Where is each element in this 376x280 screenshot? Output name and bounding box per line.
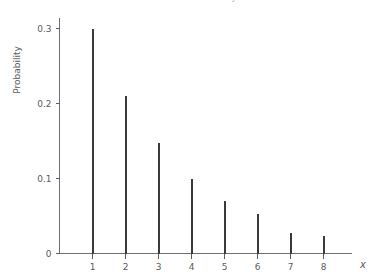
y-axis-title: Probability [12, 46, 22, 94]
y-tick-label: 0 [46, 249, 52, 259]
x-tick-label: 3 [156, 262, 162, 272]
x-tick-label: 6 [255, 262, 261, 272]
y-tick-group: 00.10.20.3 [37, 24, 59, 259]
x-axis: 12345678 x [60, 254, 367, 272]
x-tick-label: 2 [123, 262, 129, 272]
y-tick-label: 0.3 [37, 24, 51, 34]
x-tick-label: 5 [222, 262, 228, 272]
y-tick-label: 0.1 [37, 174, 51, 184]
x-tick-label: 1 [90, 262, 96, 272]
x-axis-title: x [359, 259, 366, 270]
probability-chart-figure: Probability distribution function 00.10.… [0, 0, 376, 280]
x-tick-label: 8 [321, 262, 327, 272]
y-tick-label: 0.2 [37, 99, 51, 109]
x-tick-label: 4 [189, 262, 195, 272]
x-tick-group: 12345678 [90, 254, 327, 272]
y-axis: 00.10.20.3 Probability [12, 18, 60, 259]
data-stem-group [93, 29, 324, 254]
plot-area: 00.10.20.3 Probability 12345678 x [0, 0, 376, 280]
x-tick-label: 7 [288, 262, 294, 272]
